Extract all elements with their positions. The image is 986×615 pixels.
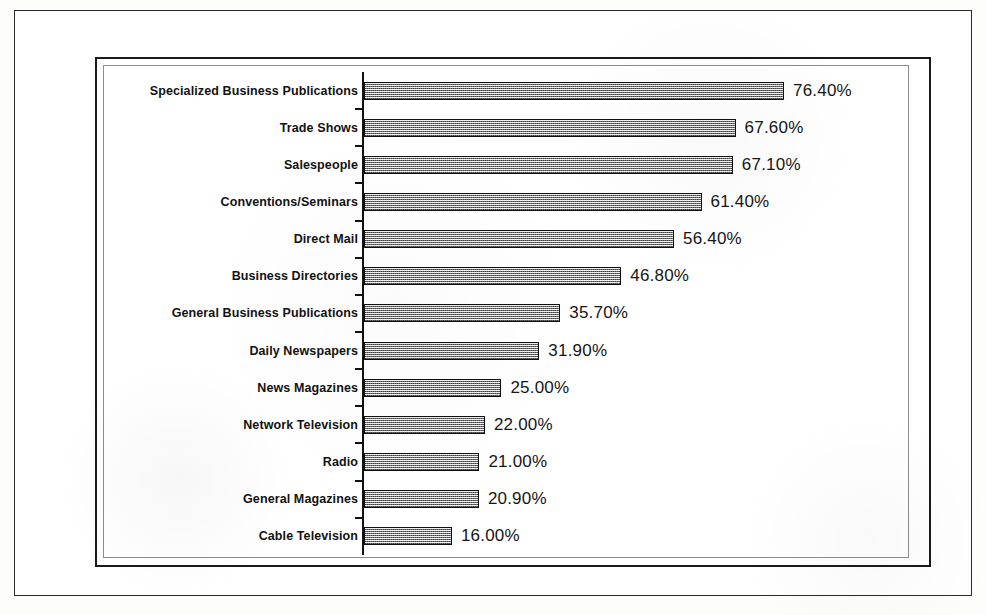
category-label: News Magazines	[257, 381, 358, 395]
bar-value-label: 67.60%	[745, 118, 804, 138]
axis-tick	[355, 331, 363, 333]
bar-row: Conventions/Seminars61.40%	[97, 183, 933, 220]
bar	[364, 453, 479, 471]
bar-group: 20.90%	[364, 490, 547, 508]
bar-group: 56.40%	[364, 230, 742, 248]
axis-tick	[355, 405, 363, 407]
category-label: Network Television	[243, 418, 358, 432]
bar	[364, 379, 501, 397]
bar-group: 76.40%	[364, 82, 852, 100]
bar-group: 35.70%	[364, 304, 628, 322]
category-label: Business Directories	[232, 269, 358, 283]
bar-value-label: 35.70%	[569, 303, 628, 323]
category-label: Direct Mail	[294, 232, 358, 246]
bar	[364, 230, 674, 248]
bar-value-label: 20.90%	[488, 489, 547, 509]
bar	[364, 156, 733, 174]
bar-group: 67.60%	[364, 119, 803, 137]
bar-row: Radio21.00%	[97, 443, 933, 480]
axis-tick	[355, 182, 363, 184]
axis-tick	[355, 294, 363, 296]
bar-group: 16.00%	[364, 527, 520, 545]
bar-group: 21.00%	[364, 453, 547, 471]
bar	[364, 490, 479, 508]
bar-group: 22.00%	[364, 416, 553, 434]
bar-row: Salespeople67.10%	[97, 146, 933, 183]
bar	[364, 267, 621, 285]
bar-row: News Magazines25.00%	[97, 369, 933, 406]
bar-row: Specialized Business Publications76.40%	[97, 72, 933, 109]
bar-group: 46.80%	[364, 267, 689, 285]
bar	[364, 193, 702, 211]
bar-value-label: 67.10%	[742, 155, 801, 175]
bar-value-label: 16.00%	[461, 526, 520, 546]
scanned-page: Specialized Business Publications76.40%T…	[0, 0, 986, 615]
bar-row: Daily Newspapers31.90%	[97, 332, 933, 369]
category-label: General Magazines	[243, 492, 358, 506]
bar-group: 31.90%	[364, 342, 607, 360]
category-label: Salespeople	[284, 158, 358, 172]
category-label: Trade Shows	[280, 121, 358, 135]
bar-row: Direct Mail56.40%	[97, 221, 933, 258]
bar-value-label: 21.00%	[488, 452, 547, 472]
bar-value-label: 61.40%	[711, 192, 770, 212]
bar	[364, 342, 539, 360]
bar-value-label: 25.00%	[510, 378, 569, 398]
bar-rows: Specialized Business Publications76.40%T…	[97, 72, 933, 555]
bar	[364, 527, 452, 545]
axis-tick	[355, 517, 363, 519]
axis-tick	[355, 442, 363, 444]
bar-row: Cable Television16.00%	[97, 518, 933, 555]
category-label: Specialized Business Publications	[150, 84, 358, 98]
bar	[364, 82, 784, 100]
axis-tick	[355, 145, 363, 147]
bar-chart-plot: Specialized Business Publications76.40%T…	[97, 59, 933, 569]
axis-tick	[355, 108, 363, 110]
bar-row: General Business Publications35.70%	[97, 295, 933, 332]
bar-row: Business Directories46.80%	[97, 258, 933, 295]
bar-value-label: 31.90%	[548, 341, 607, 361]
page-border: Specialized Business Publications76.40%T…	[14, 10, 972, 596]
bar-group: 25.00%	[364, 379, 569, 397]
axis-tick	[355, 480, 363, 482]
bar-row: General Magazines20.90%	[97, 481, 933, 518]
bar	[364, 416, 485, 434]
category-label: Radio	[323, 455, 358, 469]
bar-group: 61.40%	[364, 193, 769, 211]
category-label: Conventions/Seminars	[221, 195, 358, 209]
bar-group: 67.10%	[364, 156, 801, 174]
bar-value-label: 76.40%	[793, 81, 852, 101]
bar	[364, 304, 560, 322]
category-label: Cable Television	[259, 529, 358, 543]
bar-value-label: 56.40%	[683, 229, 742, 249]
bar-value-label: 46.80%	[630, 266, 689, 286]
axis-tick	[355, 368, 363, 370]
category-label: Daily Newspapers	[249, 344, 358, 358]
bar	[364, 119, 736, 137]
chart-frame: Specialized Business Publications76.40%T…	[95, 57, 931, 567]
category-label: General Business Publications	[172, 306, 358, 320]
bar-row: Network Television22.00%	[97, 406, 933, 443]
bar-row: Trade Shows67.60%	[97, 109, 933, 146]
bar-value-label: 22.00%	[494, 415, 553, 435]
axis-tick	[355, 220, 363, 222]
axis-tick	[355, 257, 363, 259]
